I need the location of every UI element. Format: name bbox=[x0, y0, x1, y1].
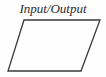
parallelogram-svg bbox=[0, 0, 106, 77]
diagram-canvas: Input/Output bbox=[0, 0, 106, 77]
input-output-parallelogram-icon bbox=[8, 20, 100, 71]
shape-layer bbox=[0, 0, 106, 77]
